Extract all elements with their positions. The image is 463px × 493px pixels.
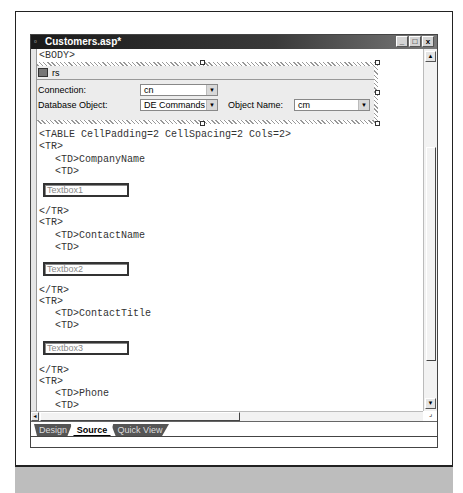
code-td: <TD> [55, 166, 79, 178]
database-object-value: DE Commands [144, 100, 205, 110]
dropdown-arrow-icon[interactable]: ▼ [206, 85, 217, 95]
object-name-select[interactable]: cm ▼ [294, 99, 370, 111]
object-name-label: Object Name: [228, 100, 283, 110]
resize-handle[interactable] [375, 60, 380, 65]
recordset-name: rs [52, 68, 60, 78]
editor-window: ▫ Customers.asp* _ □ x <BODY> rs Connect… [30, 34, 438, 448]
document-icon: ▫ [34, 38, 42, 46]
connection-label: Connection: [38, 85, 86, 95]
recordset-panel: rs Connection: cn ▼ Database Object: DE … [37, 66, 374, 120]
recordset-icon [38, 68, 48, 77]
code-tr: <TR> [39, 141, 63, 153]
code-td: <TD> [55, 242, 79, 254]
resize-handle[interactable] [375, 121, 380, 126]
code-td-label: <TD>ContactName [55, 230, 145, 242]
source-editor[interactable]: <BODY> rs Connection: cn ▼ Database Obje… [37, 49, 423, 411]
code-body-tag: <BODY> [39, 50, 75, 62]
textbox1[interactable]: Textbox1 [43, 183, 129, 197]
database-object-label: Database Object: [38, 100, 108, 110]
window-title: Customers.asp* [45, 36, 121, 47]
code-table-tag: <TABLE CellPadding=2 CellSpacing=2 Cols=… [39, 129, 291, 141]
tab-source[interactable]: Source [69, 424, 115, 436]
close-button[interactable]: x [422, 36, 434, 47]
code-td-label: <TD>Phone [55, 388, 109, 400]
vertical-scroll-thumb[interactable] [426, 147, 436, 361]
horizontal-scroll-thumb[interactable] [40, 412, 240, 421]
code-td-label: <TD>ContactTitle [55, 308, 151, 320]
scroll-left-icon[interactable]: ◄ [31, 412, 39, 421]
code-tr: <TR> [39, 376, 63, 388]
connection-select[interactable]: cn ▼ [140, 84, 218, 96]
title-bar[interactable]: ▫ Customers.asp* _ □ x [31, 35, 437, 49]
scroll-up-icon[interactable]: ▲ [425, 51, 436, 62]
resize-handle[interactable] [200, 60, 205, 65]
code-tr: <TR> [39, 296, 63, 308]
view-tabs: Design Quick View Source [31, 421, 437, 447]
textbox3[interactable]: Textbox3 [43, 341, 129, 355]
resize-handle[interactable] [375, 90, 380, 95]
tab-quick-view[interactable]: Quick View [111, 424, 169, 436]
bottom-band [15, 465, 453, 493]
window-controls: _ □ x [396, 36, 434, 47]
resize-grip-icon[interactable]: ⌟ [424, 408, 436, 420]
tab-design[interactable]: Design [34, 424, 72, 436]
code-tr: <TR> [39, 217, 63, 229]
code-td-label: <TD>CompanyName [55, 154, 145, 166]
minimize-button[interactable]: _ [396, 36, 408, 47]
database-object-select[interactable]: DE Commands ▼ [140, 99, 218, 111]
resize-handle[interactable] [200, 121, 205, 126]
code-td: <TD> [55, 400, 79, 411]
recordset-header: rs [37, 66, 374, 80]
maximize-button[interactable]: □ [409, 36, 421, 47]
object-name-value: cm [298, 100, 310, 110]
dropdown-arrow-icon[interactable]: ▼ [358, 100, 369, 110]
textbox2[interactable]: Textbox2 [43, 262, 129, 276]
tab-divider [31, 436, 437, 437]
dropdown-arrow-icon[interactable]: ▼ [206, 100, 217, 110]
horizontal-scrollbar[interactable]: ◄ [31, 411, 423, 421]
code-td: <TD> [55, 320, 79, 332]
connection-value: cn [144, 85, 154, 95]
recordset-control[interactable]: rs Connection: cn ▼ Database Object: DE … [37, 62, 378, 124]
vertical-scrollbar[interactable]: ▲ ▼ [423, 49, 437, 411]
